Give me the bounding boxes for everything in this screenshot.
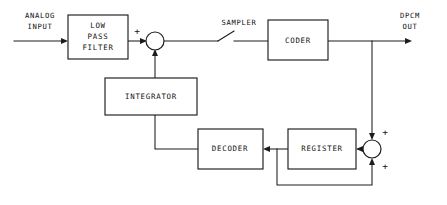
decoder-label: DECODER: [212, 144, 248, 153]
sum2-plus-sign-top: +: [382, 126, 388, 137]
analog-input-line2: INPUT: [27, 22, 52, 31]
dpcm-output-label: DPCM OUT: [400, 11, 420, 31]
wire-coder-to-output: [328, 38, 412, 44]
dpcm-block-diagram: LOW PASS FILTER CODER INTEGRATOR DECODER…: [0, 0, 447, 205]
block-decoder: DECODER: [198, 129, 263, 169]
sampler-switch: [218, 31, 234, 41]
analog-input-label: ANALOG INPUT: [25, 11, 55, 31]
register-label: REGISTER: [301, 144, 343, 153]
block-register: REGISTER: [288, 129, 356, 169]
analog-input-line1: ANALOG: [25, 11, 55, 20]
integrator-label: INTEGRATOR: [125, 92, 177, 101]
low-pass-filter-label-line2: PASS: [88, 32, 109, 41]
wire-analog-input: [14, 38, 68, 44]
sampler-label: SAMPLER: [221, 18, 256, 27]
block-coder: CODER: [268, 20, 328, 60]
low-pass-filter-label-line3: FILTER: [82, 43, 113, 52]
wire-integrator-to-decoder-node: [155, 115, 198, 149]
dpcm-out-line2: OUT: [402, 22, 417, 31]
block-low-pass-filter: LOW PASS FILTER: [68, 15, 128, 59]
wire-register-to-decoder: [263, 146, 288, 152]
coder-label: CODER: [285, 36, 311, 45]
summing-junction-2: [363, 140, 381, 158]
wire-integrator-to-sum1: [152, 49, 158, 78]
dpcm-out-line1: DPCM: [400, 11, 420, 20]
block-integrator: INTEGRATOR: [105, 78, 197, 115]
diagram-canvas: LOW PASS FILTER CODER INTEGRATOR DECODER…: [0, 0, 447, 205]
wire-lpf-to-sum1: [128, 38, 147, 44]
summing-junction-1: [146, 32, 164, 50]
low-pass-filter-label-line1: LOW: [90, 21, 106, 30]
wire-output-tap-down: [369, 41, 375, 140]
sum2-plus-sign-bottom: +: [382, 160, 388, 171]
sum1-plus-sign: +: [134, 25, 140, 36]
